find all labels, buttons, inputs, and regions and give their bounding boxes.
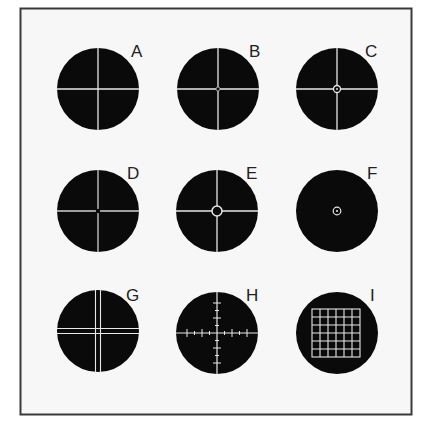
reticle-label: F xyxy=(367,164,377,183)
reticle-label: C xyxy=(365,42,377,61)
reticle-label: H xyxy=(246,286,258,305)
reticle-label: G xyxy=(126,286,139,305)
center-dot-icon xyxy=(96,209,100,213)
reticle-label: B xyxy=(249,42,260,61)
reticle-label: D xyxy=(127,164,139,183)
center-dot-icon xyxy=(216,87,220,91)
reticle-figure: A B C D E F xyxy=(0,0,428,433)
reticle-label: I xyxy=(370,286,375,305)
open-circle-icon xyxy=(212,206,222,216)
reticle-label: E xyxy=(246,164,257,183)
reticle-label: A xyxy=(131,42,143,61)
